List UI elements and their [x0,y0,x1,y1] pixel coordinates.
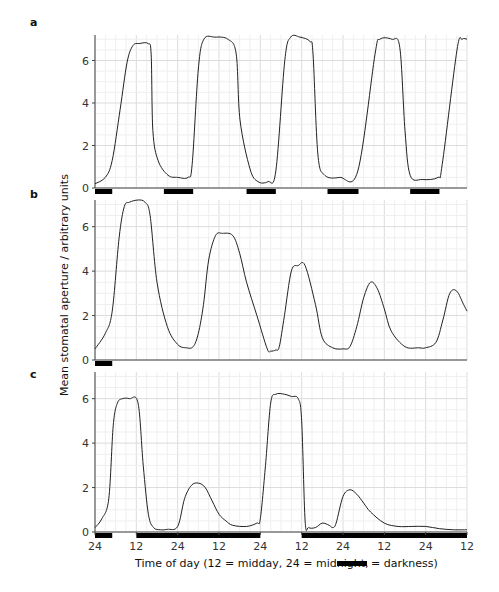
panel-label-b: b [30,188,38,201]
x-tick-label: 12 [295,540,309,553]
y-tick-label: 6 [82,393,89,406]
y-tick-label: 2 [82,310,89,323]
darkness-bar [410,189,439,194]
y-tick-label: 6 [82,221,89,234]
panel-label-c: c [30,368,37,381]
x-tick-label: 12 [460,540,474,553]
x-tick-label: 12 [212,540,226,553]
stomatal-aperture-chart: 0246a0246b0246c24122412241224122412 Mean… [0,0,499,592]
x-tick-label: 12 [377,540,391,553]
darkness-bar [95,533,112,538]
y-tick-label: 6 [82,55,89,68]
x-axis-title-group: Time of day (12 = midday, 24 = midnight,… [134,557,438,570]
x-tick-label: 24 [419,540,433,553]
x-axis-title-legend-text: = darkness) [371,557,438,570]
darkness-bar [136,533,260,538]
x-tick-label: 24 [253,540,267,553]
darkness-bar [95,361,112,366]
y-axis-title: Mean stomatal aperture / arbitrary units [58,174,71,396]
y-tick-label: 0 [82,526,89,539]
darkness-legend-swatch [337,561,367,566]
y-tick-label: 4 [82,265,89,278]
panel-b: 0246b [30,188,467,367]
x-tick-label: 24 [88,540,102,553]
darkness-bar [164,189,193,194]
x-tick-label: 24 [336,540,350,553]
panel-label-a: a [30,16,37,29]
panel-c: 0246c [30,368,467,539]
x-axis-title: Time of day (12 = midday, 24 = midnight, [134,557,368,570]
panel-a: 0246a [30,16,467,195]
y-tick-label: 4 [82,97,89,110]
y-tick-label: 0 [82,354,89,367]
y-tick-label: 2 [82,482,89,495]
panels-layer: 0246a0246b0246c24122412241224122412 [30,16,474,553]
x-tick-label: 12 [129,540,143,553]
darkness-bar [247,189,276,194]
y-tick-label: 0 [82,182,89,195]
darkness-bar [95,189,112,194]
y-tick-label: 4 [82,437,89,450]
darkness-bar [328,189,359,194]
y-tick-label: 2 [82,140,89,153]
x-tick-label: 24 [171,540,185,553]
